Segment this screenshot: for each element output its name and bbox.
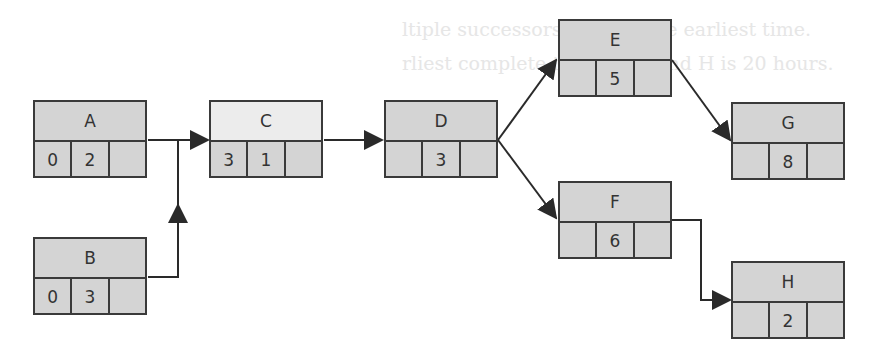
node-d: D 3	[384, 100, 498, 178]
node-e-cell-2: 5	[597, 61, 634, 97]
node-b-cell-1: 0	[35, 279, 72, 315]
node-h-cell-1	[733, 303, 770, 339]
node-a-cell-3	[110, 142, 145, 178]
node-e: E 5	[558, 19, 672, 97]
node-a-cell-2: 2	[72, 142, 109, 178]
edge-d-e	[498, 60, 556, 140]
node-g-label: G	[733, 104, 843, 144]
node-d-cell-3	[461, 142, 496, 178]
node-b-cell-2: 3	[72, 279, 109, 315]
node-f-cell-2: 6	[597, 223, 634, 259]
edge-e-g	[672, 60, 730, 140]
node-c: C 31	[209, 100, 323, 178]
node-a-label: A	[35, 102, 145, 142]
node-b: B 03	[33, 237, 147, 315]
edge-f-h	[672, 220, 730, 300]
node-c-label: C	[211, 102, 321, 142]
node-h-cell-2: 2	[770, 303, 807, 339]
node-e-label: E	[560, 21, 670, 61]
node-c-cell-2: 1	[248, 142, 285, 178]
node-f-cell-1	[560, 223, 597, 259]
node-c-cell-1: 3	[211, 142, 248, 178]
node-b-cell-3	[110, 279, 145, 315]
edge-b-c	[148, 205, 178, 277]
node-h-cell-3	[808, 303, 843, 339]
node-f: F 6	[558, 181, 672, 259]
node-a-cell-1: 0	[35, 142, 72, 178]
node-a: A 02	[33, 100, 147, 178]
node-g: G 8	[731, 102, 845, 180]
node-g-cell-2: 8	[770, 144, 807, 180]
node-e-cell-3	[635, 61, 670, 97]
node-g-cell-3	[808, 144, 843, 180]
node-f-label: F	[560, 183, 670, 223]
node-h: H 2	[731, 261, 845, 339]
node-b-label: B	[35, 239, 145, 279]
node-c-cell-3	[286, 142, 321, 178]
node-h-label: H	[733, 263, 843, 303]
node-d-cell-2: 3	[423, 142, 460, 178]
node-d-cell-1	[386, 142, 423, 178]
node-e-cell-1	[560, 61, 597, 97]
node-f-cell-3	[635, 223, 670, 259]
node-g-cell-1	[733, 144, 770, 180]
edge-d-f	[498, 140, 556, 218]
node-d-label: D	[386, 102, 496, 142]
